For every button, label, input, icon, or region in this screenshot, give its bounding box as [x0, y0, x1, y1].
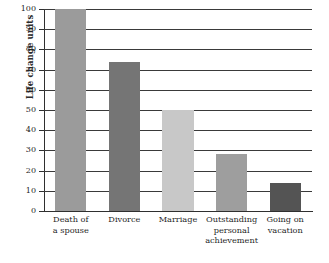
- bar: [55, 9, 86, 211]
- category-label-line: vacation: [258, 225, 312, 236]
- category-label-line: Divorce: [98, 214, 152, 225]
- bar: [162, 110, 193, 211]
- y-tick-label-40: 40: [0, 126, 36, 134]
- category-label-line: Marriage: [151, 214, 205, 225]
- category-label-line: achievement: [205, 235, 259, 246]
- category-label: Outstandingpersonalachievement: [205, 214, 259, 246]
- category-label-line: personal: [205, 225, 259, 236]
- y-tick-label-30: 30: [0, 146, 36, 154]
- category-label: Death ofa spouse: [44, 214, 98, 235]
- category-label-line: a spouse: [44, 225, 98, 236]
- y-tick-label-10: 10: [0, 187, 36, 195]
- bar: [216, 154, 247, 211]
- y-tick-label-20: 20: [0, 167, 36, 175]
- gridline-0: [44, 211, 312, 212]
- category-label: Marriage: [151, 214, 205, 225]
- y-tick-label-80: 80: [0, 45, 36, 53]
- category-label-line: Death of: [44, 214, 98, 225]
- y-tick-0: [39, 211, 44, 212]
- bar-series: [44, 9, 312, 211]
- y-tick-label-100: 100: [0, 5, 36, 13]
- category-label-line: Going on: [258, 214, 312, 225]
- bar: [270, 183, 301, 211]
- y-tick-label-90: 90: [0, 25, 36, 33]
- y-tick-label-70: 70: [0, 66, 36, 74]
- x-axis-category-labels: Death ofa spouseDivorceMarriageOutstandi…: [44, 214, 312, 262]
- y-tick-label-60: 60: [0, 86, 36, 94]
- bar-chart: Life change units 0102030405060708090100…: [0, 0, 329, 263]
- category-label: Divorce: [98, 214, 152, 225]
- category-label: Going onvacation: [258, 214, 312, 235]
- y-tick-label-50: 50: [0, 106, 36, 114]
- bar: [109, 62, 140, 211]
- category-label-line: Outstanding: [205, 214, 259, 225]
- y-tick-label-0: 0: [0, 207, 36, 215]
